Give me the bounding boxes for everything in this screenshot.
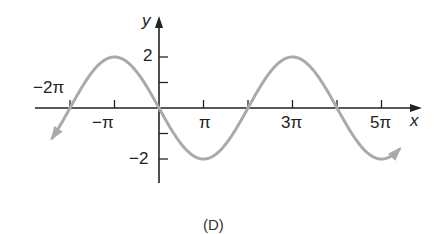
x-tick-label-pi: π (199, 114, 211, 131)
y-tick-label-neg2: −2 (129, 150, 148, 167)
y-axis-arrow-icon (155, 16, 163, 28)
x-tick-label-neg2pi: −2π (33, 79, 64, 96)
x-tick-label-3pi: 3π (281, 114, 302, 131)
x-tick-label-5pi: 5π (370, 114, 391, 131)
y-tick-label-2: 2 (143, 47, 152, 64)
y-axis-label: y (142, 12, 151, 29)
curve-line (51, 57, 402, 161)
curve-left-arrow-icon (51, 126, 63, 140)
x-tick-label-negpi: −π (92, 114, 114, 131)
curve-right-arrow-icon (388, 147, 401, 161)
axes (35, 16, 422, 183)
figure-caption: (D) (203, 216, 224, 233)
x-axis-label: x (410, 112, 419, 129)
